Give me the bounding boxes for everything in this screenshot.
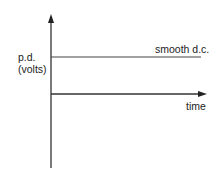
graph-canvas bbox=[0, 0, 218, 176]
series-label-smooth-dc: smooth d.c. bbox=[155, 43, 209, 55]
x-axis-arrowhead-icon bbox=[198, 91, 207, 97]
y-axis-arrowhead-icon bbox=[48, 14, 54, 23]
x-axis-label-time: time bbox=[186, 100, 206, 112]
y-axis-label-pd: p.d. bbox=[18, 51, 36, 63]
y-axis-label-volts: (volts) bbox=[18, 63, 47, 75]
